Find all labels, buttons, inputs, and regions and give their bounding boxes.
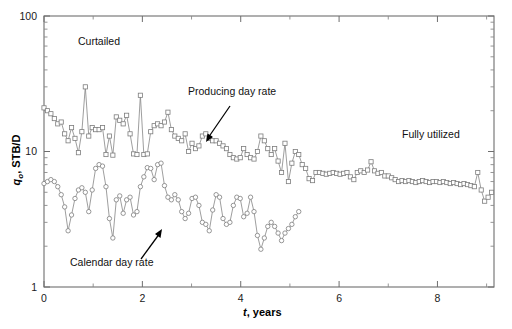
data-point [121,122,125,126]
data-point [169,128,173,132]
data-point [66,139,70,143]
data-point [297,152,301,156]
data-point [66,229,70,233]
data-point [118,194,122,198]
data-series-group [42,85,494,252]
data-point [152,177,156,181]
data-point [283,141,287,145]
data-point [135,152,139,156]
data-point [252,209,256,213]
data-point [489,190,493,194]
series-calendar-day-rate [42,161,301,251]
data-point [111,236,115,240]
data-point [128,132,132,136]
data-point [149,166,153,170]
data-point [369,160,373,164]
data-point [279,170,283,174]
data-point [69,126,73,130]
data-point [80,186,84,190]
data-point [104,152,108,156]
data-point [176,198,180,202]
x-tick-label: 8 [435,292,441,304]
data-point [259,134,263,138]
arrow-producing-day-rate [206,106,230,142]
data-point [183,132,187,136]
data-point [255,149,259,153]
data-point [366,168,370,172]
data-point [183,216,187,220]
data-point [273,147,277,151]
data-point [242,147,246,151]
data-point [193,195,197,199]
data-point [286,226,290,230]
data-point [62,205,66,209]
data-point [180,139,184,143]
data-point [472,185,476,189]
data-point [241,215,245,219]
data-point [272,224,276,228]
y-tick-label: 1 [31,281,37,293]
data-point [204,222,208,226]
data-point [69,213,73,217]
data-point [121,211,125,215]
data-point [142,175,146,179]
data-point [138,184,142,188]
annotation-fully-utilized: Fully utilized [402,128,460,140]
data-point [221,216,225,220]
data-point [83,85,87,89]
data-point [190,141,194,145]
data-point [197,203,201,207]
y-tick-label: 10 [25,145,37,157]
data-point [186,211,190,215]
data-point [87,134,91,138]
y-axis-title: qo, STB/D [10,135,25,186]
y-tick-label: 100 [19,10,37,22]
data-point [262,236,266,240]
data-point [290,222,294,226]
data-point [73,136,77,140]
data-point [217,195,221,199]
data-point [111,153,115,157]
data-point [135,209,139,213]
data-point [283,231,287,235]
data-point [279,238,283,242]
data-point [149,130,153,134]
data-point [228,220,232,224]
series-producing-day-rate [42,85,494,204]
data-point [52,179,56,183]
data-point [90,188,94,192]
data-point [173,192,177,196]
data-point [290,161,294,165]
data-point [304,166,308,170]
data-point [238,156,242,160]
data-point [345,170,349,174]
data-point [59,120,63,124]
x-tick-label: 2 [139,292,145,304]
data-point [114,198,118,202]
data-point [80,130,84,134]
data-point [276,231,280,235]
data-point [162,183,166,187]
data-point [128,195,132,199]
x-axis-ticks [44,16,487,287]
data-point [266,224,270,228]
data-point [63,132,67,136]
data-point [59,192,63,196]
data-point [224,147,228,151]
data-point [49,112,53,116]
x-tick-label: 6 [336,292,342,304]
data-point [107,216,111,220]
data-point [486,195,490,199]
data-point [352,178,356,182]
data-point [166,110,170,114]
x-axis-title: t, years [243,306,282,318]
data-point [145,152,149,156]
data-point [180,209,184,213]
data-point [259,247,263,251]
data-point [238,196,242,200]
data-point [131,213,135,217]
chart-canvas: 11010002468 CurtailedFully utilizedProdu… [0,0,512,329]
x-tick-label: 0 [41,292,47,304]
data-point [269,152,273,156]
data-point [231,203,235,207]
